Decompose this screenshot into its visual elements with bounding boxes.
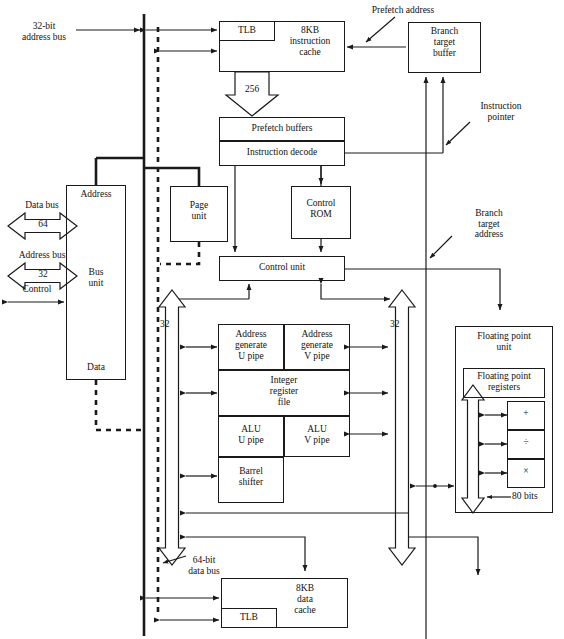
bus-unit-line2: unit — [89, 278, 104, 288]
agu-u-line1: Address — [235, 329, 266, 339]
control-rom-line1: Control — [306, 198, 335, 208]
right-32-bus — [389, 290, 415, 565]
pentium-block-diagram: TLB 8KB instruction cache Branch target … — [0, 0, 564, 639]
instruction-cache-label: 8KB instruction cache — [275, 25, 345, 57]
fpu-add-label: + — [507, 408, 545, 419]
bus-unit-address-label: Address — [66, 189, 126, 200]
irf-line1: Integer — [271, 375, 298, 385]
bus-unit-data-label: Data — [66, 362, 126, 373]
fpr-line2: registers — [488, 382, 520, 392]
fpr-line1: Floating point — [477, 371, 531, 381]
alu-v-line1: ALU — [307, 424, 327, 434]
bus-unit-label: Bus unit — [66, 267, 126, 289]
dcache-line1: 8KB — [296, 583, 314, 593]
agu-u-line2: generate — [235, 340, 267, 350]
irf-line3: file — [278, 397, 291, 407]
prefetch-buffers-label: Prefetch buffers — [219, 123, 345, 134]
control-rom-line2: ROM — [310, 209, 332, 219]
addr-generate-v-pipe-label: Address generate V pipe — [284, 329, 350, 361]
page-unit-line2: unit — [192, 211, 207, 221]
btb-line1: Branch — [431, 26, 458, 36]
alu-v-pipe-label: ALU V pipe — [284, 424, 350, 446]
icache-line2: instruction — [290, 36, 331, 46]
alu-u-line1: ALU — [241, 424, 261, 434]
agu-u-line3: U pipe — [238, 351, 264, 361]
bus-unit-line1: Bus — [89, 267, 104, 277]
alu-u-pipe-label: ALU U pipe — [218, 424, 284, 446]
instruction-decode-label: Instruction decode — [219, 147, 345, 158]
floating-point-registers-label: Floating point registers — [463, 371, 545, 393]
fpu-line1: Floating point — [477, 331, 531, 341]
page-unit-label: Page unit — [170, 200, 228, 222]
barrel-line2: shifter — [239, 477, 263, 487]
fpu-divide-label: ÷ — [507, 437, 545, 448]
integer-register-file-label: Integer register file — [218, 375, 350, 407]
data-tlb-label: TLB — [221, 612, 277, 623]
dcache-line2: data — [297, 594, 313, 604]
irf-line2: register — [270, 386, 299, 396]
agu-v-line2: generate — [301, 340, 333, 350]
icache-line1: 8KB — [301, 25, 319, 35]
dcache-line3: cache — [294, 605, 316, 615]
barrel-shifter-label: Barrel shifter — [218, 466, 284, 488]
icache-line3: cache — [299, 47, 321, 57]
page-unit-line1: Page — [190, 200, 208, 210]
btb-line3: buffer — [433, 48, 456, 58]
left-32-bus — [159, 290, 185, 565]
control-rom-label: Control ROM — [291, 198, 351, 220]
instruction-tlb-label: TLB — [219, 25, 275, 36]
barrel-line1: Barrel — [239, 466, 263, 476]
agu-v-line3: V pipe — [304, 351, 329, 361]
btb-line2: target — [434, 37, 455, 47]
control-unit-label: Control unit — [219, 262, 345, 273]
fpu-line2: unit — [497, 342, 512, 352]
addr-generate-u-pipe-label: Address generate U pipe — [218, 329, 284, 361]
cache-to-prefetch-bus — [226, 72, 278, 116]
alu-v-line2: V pipe — [304, 435, 329, 445]
floating-point-unit-label: Floating point unit — [455, 331, 553, 353]
fpu-multiply-label: × — [507, 466, 545, 477]
agu-v-line1: Address — [301, 329, 332, 339]
branch-target-buffer-label: Branch target buffer — [408, 26, 481, 58]
alu-u-line2: U pipe — [238, 435, 264, 445]
